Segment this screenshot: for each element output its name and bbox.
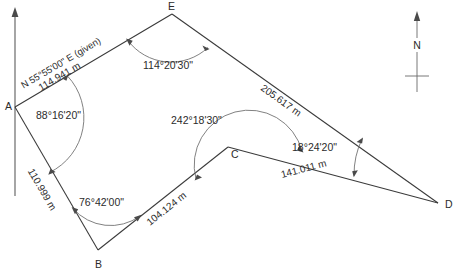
vertex-label-E: E: [168, 0, 175, 12]
distance-label-D-C: 141.011 m: [280, 157, 328, 180]
angle-label-B: 76°42'00": [79, 196, 124, 208]
vertex-label-C: C: [231, 148, 239, 160]
traverse-diagram: N A B C D E 88°16'20" 114°20'30" 242°18'…: [0, 0, 458, 275]
meridian-reference-line: [12, 7, 19, 196]
side-label-D-C: 141.011 m: [280, 157, 328, 180]
angle-label-D: 18°24'20": [292, 141, 337, 153]
vertex-label-B: B: [95, 258, 102, 270]
angle-label-C: 242°18'30": [171, 114, 222, 126]
vertex-label-A: A: [5, 100, 12, 112]
angle-arc-A: [48, 75, 84, 175]
traverse-svg: N A B C D E 88°16'20" 114°20'30" 242°18'…: [0, 0, 458, 275]
vertex-label-D: D: [445, 198, 453, 210]
angle-label-E: 114°20'30": [143, 59, 193, 71]
side-D-C: [228, 147, 438, 203]
angle-label-A: 88°16'20": [36, 109, 81, 121]
angle-labels: 88°16'20" 114°20'30" 242°18'30" 18°24'20…: [36, 59, 337, 208]
north-label: N: [413, 39, 421, 51]
side-B-A: [15, 107, 98, 250]
north-compass: N: [405, 11, 429, 92]
side-E-D: [172, 14, 438, 203]
vertex-labels: A B C D E: [5, 0, 453, 270]
side-label-A-E: N 55°55'00" E (given) 114.941 m: [19, 35, 108, 100]
